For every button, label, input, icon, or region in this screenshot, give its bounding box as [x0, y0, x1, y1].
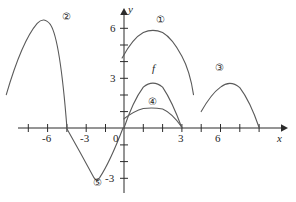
curve-label-f: f: [152, 63, 155, 74]
curve-2-path: [6, 20, 67, 127]
curve-label-5: ⑤: [93, 178, 102, 188]
x-tick-label-3: 3: [178, 133, 184, 144]
x-axis: [18, 124, 288, 132]
curve-label-3: ③: [215, 63, 224, 73]
y-axis-arrow: [120, 8, 128, 15]
curve-label-2: ②: [62, 12, 71, 22]
x-tick-label-minus3: -3: [80, 133, 89, 144]
curve-label-4: ④: [148, 97, 157, 107]
curve-3-path: [201, 83, 259, 127]
y-tick-label-6: 6: [110, 23, 116, 34]
x-axis-arrow: [281, 124, 288, 132]
curve-4-path: [124, 108, 182, 127]
y-tick-label-minus3: -3: [105, 173, 114, 184]
y-axis: [120, 8, 128, 193]
origin-label: 0: [113, 133, 119, 144]
curve-1-path: [122, 30, 193, 94]
graph-figure: -6 -3 6 3 0 6 3 -3 y x ② ① ③ ④ ⑤ f: [0, 0, 296, 202]
y-axis-label: y: [128, 4, 133, 15]
y-tick-label-3: 3: [110, 73, 116, 84]
x-tick-label-6: 6: [215, 133, 221, 144]
curve-label-1: ①: [156, 15, 165, 25]
x-axis-label: x: [277, 133, 282, 144]
x-tick-label-minus6: -6: [42, 133, 51, 144]
